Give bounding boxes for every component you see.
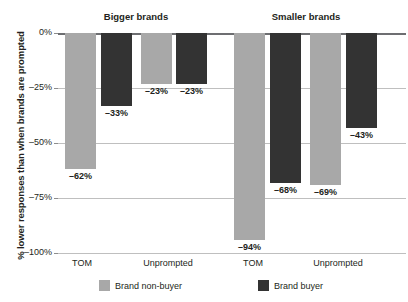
bar[interactable] — [176, 33, 207, 84]
y-tick-label: 0% — [8, 27, 52, 37]
plot-area: 0%–25%–50%–75%–100%–62%–33%–23%–23%–94%–… — [58, 33, 406, 253]
x-axis-label-tom-bigger: TOM — [52, 258, 112, 268]
y-tick-mark — [54, 198, 58, 199]
y-tick-mark — [54, 143, 58, 144]
legend-swatch-icon-brand-non-buyer — [99, 280, 110, 291]
group-title-bigger-brands: Bigger brands — [66, 11, 206, 22]
bar[interactable] — [270, 33, 301, 183]
bar-value-label: –43% — [340, 130, 383, 140]
bar-value-label: –23% — [170, 86, 213, 96]
gridline-neg75 — [58, 198, 406, 199]
bar[interactable] — [310, 33, 341, 185]
y-tick-label: –100% — [8, 247, 52, 257]
y-tick-mark — [54, 88, 58, 89]
legend-item-brand-non-buyer: Brand non-buyer — [99, 280, 182, 291]
bar-chart: % lower responses than when brands are p… — [0, 0, 408, 302]
legend-label-brand-non-buyer: Brand non-buyer — [115, 281, 182, 291]
legend: Brand non-buyer Brand buyer — [0, 280, 408, 296]
gridline-neg100 — [58, 253, 406, 254]
bar-value-label: –62% — [59, 171, 102, 181]
x-axis-label-unprompted-smaller: Unprompted — [298, 258, 378, 268]
y-tick-label: –50% — [8, 137, 52, 147]
y-tick-label: –25% — [8, 82, 52, 92]
legend-item-brand-buyer: Brand buyer — [258, 280, 323, 291]
bar-value-label: –69% — [304, 187, 347, 197]
bar-value-label: –94% — [228, 242, 271, 252]
x-axis-label-unprompted-bigger: Unprompted — [128, 258, 208, 268]
bar-value-label: –33% — [95, 108, 138, 118]
x-axis-label-tom-smaller: TOM — [223, 258, 283, 268]
legend-swatch-icon-brand-buyer — [258, 280, 269, 291]
bar[interactable] — [65, 33, 96, 169]
legend-label-brand-buyer: Brand buyer — [274, 281, 323, 291]
bar[interactable] — [234, 33, 265, 240]
bar[interactable] — [346, 33, 377, 128]
y-tick-mark — [54, 33, 58, 34]
y-tick-label: –75% — [8, 192, 52, 202]
group-title-smaller-brands: Smaller brands — [236, 11, 376, 22]
y-tick-mark — [54, 253, 58, 254]
bar[interactable] — [141, 33, 172, 84]
bar[interactable] — [101, 33, 132, 106]
bar-value-label: –68% — [264, 185, 307, 195]
gridline-neg50 — [58, 143, 406, 144]
